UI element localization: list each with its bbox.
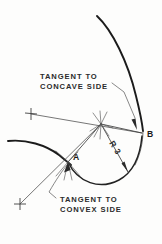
drawing-svg: TANGENT TO CONCAVE SIDE TANGENT TO CONVE… — [0, 0, 162, 244]
point-label-b: B — [147, 129, 153, 139]
upper-plus-mark — [25, 108, 37, 120]
concave-note-leader — [112, 83, 135, 118]
technical-drawing-canvas: TANGENT TO CONCAVE SIDE TANGENT TO CONVE… — [0, 0, 162, 244]
concave-note-line1: TANGENT TO — [40, 72, 98, 81]
radius-dimension-arrowhead — [122, 162, 129, 173]
upper-tangent-construction-line — [31, 114, 142, 133]
convex-note-line1: TANGENT TO — [60, 195, 118, 204]
convex-note-leader — [49, 165, 67, 198]
radius-dimension-label: R 3 — [107, 139, 122, 156]
convex-tangent-construction-line — [20, 124, 101, 204]
point-label-a: A — [73, 152, 79, 162]
concave-object-curve — [97, 16, 143, 131]
convex-note-line2: CONVEX SIDE — [60, 205, 122, 214]
concave-leader-arrowhead — [132, 119, 138, 131]
convex-object-curve — [8, 141, 71, 165]
concave-note-line2: CONCAVE SIDE — [40, 82, 108, 91]
